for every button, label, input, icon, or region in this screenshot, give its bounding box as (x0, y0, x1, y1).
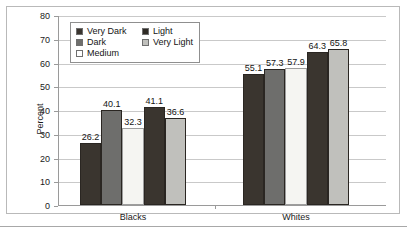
gridline-80 (59, 16, 386, 17)
bar-value-label: 65.8 (330, 39, 348, 48)
bar-whites-dark: 57.3 (264, 69, 285, 205)
y-tick-label-50: 50 (40, 83, 50, 92)
legend-label: Very Light (153, 38, 193, 47)
legend-label: Dark (87, 38, 106, 47)
bar-chart-figure: Percent 01020304050607080 26.240.132.341… (0, 0, 407, 237)
x-axis-label-blacks: Blacks (120, 212, 147, 222)
legend-label: Very Dark (87, 27, 127, 36)
bar-value-label: 55.1 (245, 64, 263, 73)
bar-value-label: 32.3 (124, 118, 142, 127)
bar-blacks-light: 41.1 (144, 107, 165, 205)
legend-item-light[interactable]: Light (142, 27, 200, 36)
legend-swatch-icon (76, 50, 83, 57)
bar-whites-very-light: 65.8 (328, 49, 349, 205)
y-tick-label-10: 10 (40, 178, 50, 187)
chart-legend: Very DarkLightDarkVery LightMedium (70, 22, 200, 63)
y-tick-label-30: 30 (40, 130, 50, 139)
legend-label: Light (153, 27, 173, 36)
bar-value-label: 36.6 (167, 108, 185, 117)
y-tick-80 (54, 16, 58, 17)
y-tick-40 (54, 111, 58, 112)
y-tick-70 (54, 40, 58, 41)
bar-value-label: 41.1 (145, 97, 163, 106)
y-tick-label-60: 60 (40, 59, 50, 68)
bar-whites-very-dark: 55.1 (243, 74, 264, 205)
y-tick-label-80: 80 (40, 12, 50, 21)
legend-item-very-dark[interactable]: Very Dark (76, 27, 142, 36)
y-tick-30 (54, 135, 58, 136)
x-axis-label-whites: Whites (282, 212, 310, 222)
bar-value-label: 26.2 (82, 133, 100, 142)
legend-label: Medium (87, 49, 119, 58)
y-tick-label-70: 70 (40, 35, 50, 44)
y-tick-label-40: 40 (40, 107, 50, 116)
y-tick-0 (54, 206, 58, 207)
legend-item-dark[interactable]: Dark (76, 38, 142, 47)
bar-whites-light: 64.3 (307, 52, 328, 205)
legend-swatch-icon (142, 28, 149, 35)
bar-whites-medium: 57.9 (285, 68, 306, 206)
y-tick-20 (54, 159, 58, 160)
legend-swatch-icon (76, 39, 83, 46)
bar-blacks-very-light: 36.6 (165, 118, 186, 205)
bar-value-label: 64.3 (308, 42, 326, 51)
y-tick-60 (54, 64, 58, 65)
legend-swatch-icon (142, 39, 149, 46)
legend-item-medium[interactable]: Medium (76, 49, 142, 58)
category-divider-tick (215, 205, 216, 209)
legend-item-very-light[interactable]: Very Light (142, 38, 200, 47)
bar-value-label: 40.1 (103, 100, 121, 109)
legend-swatch-icon (76, 28, 83, 35)
bar-blacks-dark: 40.1 (101, 110, 122, 205)
bar-blacks-medium: 32.3 (122, 128, 143, 205)
y-tick-10 (54, 182, 58, 183)
y-tick-50 (54, 87, 58, 88)
bar-value-label: 57.9 (287, 58, 305, 67)
y-tick-label-20: 20 (40, 154, 50, 163)
bar-value-label: 57.3 (266, 59, 284, 68)
y-tick-label-0: 0 (45, 202, 50, 211)
page-horizontal-rule (0, 226, 407, 227)
bar-blacks-very-dark: 26.2 (80, 143, 101, 205)
